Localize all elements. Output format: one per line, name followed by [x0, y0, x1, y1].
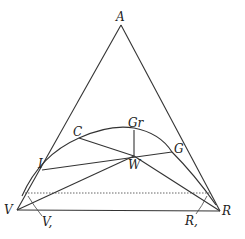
side-AV — [17, 25, 121, 210]
triangle-diagram: A V R C Gr G W I V, R, — [0, 0, 245, 239]
label-V-sub: V, — [42, 215, 52, 229]
label-R-sub: R, — [184, 214, 198, 228]
side-VR — [17, 210, 220, 211]
label-G: G — [174, 142, 184, 156]
label-V: V — [4, 203, 14, 217]
line-V-W — [17, 156, 134, 210]
label-I: I — [37, 157, 43, 171]
label-W: W — [128, 158, 142, 172]
label-A: A — [115, 10, 125, 24]
label-C: C — [73, 125, 82, 139]
line-W-R — [134, 156, 220, 211]
label-Gr: Gr — [128, 116, 145, 130]
label-R: R — [221, 204, 231, 218]
line-C-W — [79, 138, 134, 156]
